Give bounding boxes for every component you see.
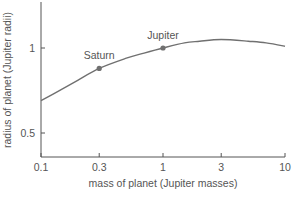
x-tick-label: 1 — [160, 161, 166, 173]
y-axis-title: radius of planet (Jupiter radii) — [1, 12, 13, 148]
x-tick-label: 0.3 — [92, 161, 107, 173]
y-tick-label: 1 — [29, 42, 35, 54]
x-tick-label: 10 — [279, 161, 291, 173]
x-tick-group: 0.10.31310 — [34, 153, 291, 173]
planet-markers: SaturnJupiter — [84, 29, 180, 71]
saturn-label: Saturn — [84, 49, 115, 61]
jupiter-label: Jupiter — [147, 29, 179, 41]
jupiter-marker — [160, 45, 165, 50]
x-tick-label: 3 — [218, 161, 224, 173]
y-tick-label: 0.5 — [20, 127, 35, 139]
mass-radius-chart: 0.10.31310 10.5 SaturnJupiter mass of pl… — [0, 0, 293, 197]
saturn-marker — [97, 66, 102, 71]
x-axis-title: mass of planet (Jupiter masses) — [89, 177, 238, 189]
x-tick-label: 0.1 — [34, 161, 49, 173]
